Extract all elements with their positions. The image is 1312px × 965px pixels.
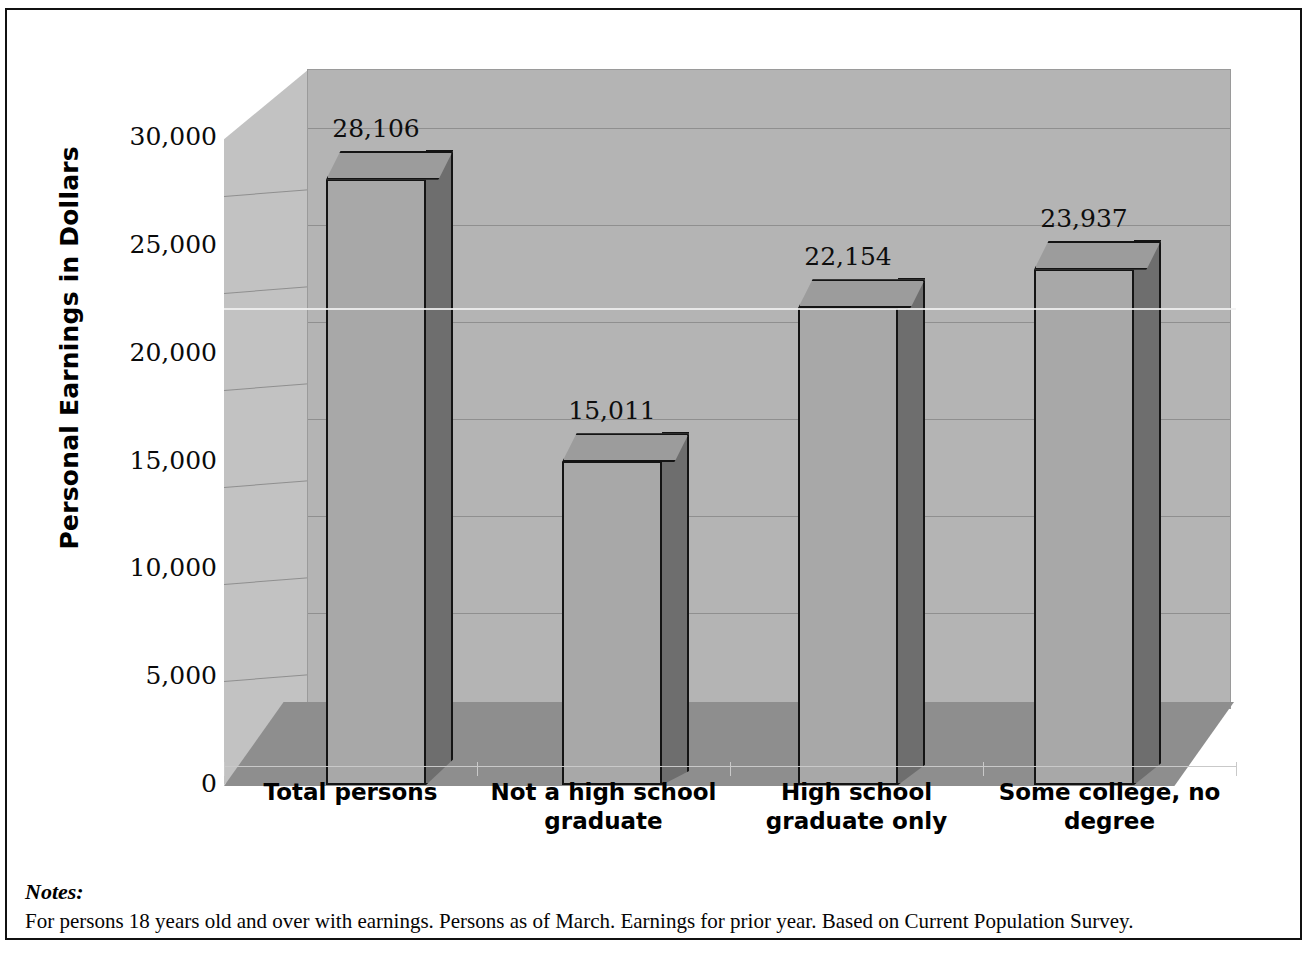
bar-1: 28,106 <box>326 179 426 785</box>
page-bleed-text <box>30 948 1275 965</box>
bar-side-face <box>426 150 453 785</box>
x-tick-separator-4 <box>1236 762 1237 776</box>
scanline-artifact <box>224 308 1236 310</box>
bar-top-face <box>1034 241 1161 270</box>
x-category-label-1: Total persons <box>224 778 477 837</box>
chart-figure-frame: Personal Earnings in Dollars 05,00010,00… <box>5 8 1302 940</box>
x-category-label-line: High school <box>736 778 977 807</box>
bar-value-label-1: 28,106 <box>286 114 466 143</box>
bar-front-face <box>798 307 898 785</box>
y-tick-label-10000: 10,000 <box>87 555 217 580</box>
y-axis-title: Personal Earnings in Dollars <box>55 190 84 550</box>
bar-front-face <box>562 461 662 785</box>
bar-top-face <box>798 279 925 308</box>
x-category-label-line: Not a high school <box>483 778 724 807</box>
bar-4: 23,937 <box>1034 269 1134 785</box>
x-category-label-line: graduate <box>483 807 724 836</box>
bar-2: 15,011 <box>562 461 662 785</box>
bar-value-label-3: 22,154 <box>758 242 938 271</box>
x-tick-separator-2 <box>730 762 731 776</box>
x-category-label-3: High schoolgraduate only <box>730 778 983 837</box>
chart-area: Personal Earnings in Dollars 05,00010,00… <box>7 10 1300 855</box>
gridline-side-30000 <box>224 189 309 197</box>
x-category-label-line: Some college, no <box>989 778 1230 807</box>
bar-top-face <box>562 433 689 462</box>
gridline-side-25000 <box>224 286 309 294</box>
x-axis-category-labels: Total personsNot a high schoolgraduateHi… <box>224 778 1236 837</box>
x-category-label-line: Total persons <box>230 778 471 807</box>
plot-3d-box: 28,10615,01122,15423,937 <box>224 62 1236 762</box>
bar-side-face <box>898 278 925 785</box>
notes-label: Notes: <box>25 878 1275 906</box>
y-tick-label-15000: 15,000 <box>87 448 217 473</box>
y-tick-label-20000: 20,000 <box>87 340 217 365</box>
x-category-label-line: degree <box>989 807 1230 836</box>
gridline-side-15000 <box>224 480 309 488</box>
x-tick-separator-0 <box>224 762 225 776</box>
bar-front-face <box>326 179 426 785</box>
y-tick-label-25000: 25,000 <box>87 232 217 257</box>
x-category-label-4: Some college, nodegree <box>983 778 1236 837</box>
gridline-side-20000 <box>224 383 309 391</box>
y-tick-label-5000: 5,000 <box>87 663 217 688</box>
notes-text: For persons 18 years old and over with e… <box>25 908 1275 935</box>
bar-3: 22,154 <box>798 307 898 785</box>
bar-top-face <box>326 151 453 180</box>
gridline-side-10000 <box>224 577 309 585</box>
x-tick-separator-3 <box>983 762 984 776</box>
x-category-label-2: Not a high schoolgraduate <box>477 778 730 837</box>
bar-front-face <box>1034 269 1134 785</box>
bar-side-face <box>662 432 689 785</box>
y-tick-label-30000: 30,000 <box>87 124 217 149</box>
bar-value-label-2: 15,011 <box>522 396 702 425</box>
x-tick-separator-1 <box>477 762 478 776</box>
bar-value-label-4: 23,937 <box>994 204 1174 233</box>
y-tick-label-0: 0 <box>87 771 217 796</box>
bar-side-face <box>1134 240 1161 785</box>
gridline-side-5000 <box>224 674 309 682</box>
notes-block: Notes: For persons 18 years old and over… <box>25 878 1275 935</box>
x-category-label-line: graduate only <box>736 807 977 836</box>
plot-left-wall <box>224 69 309 785</box>
y-axis-tick-labels: 05,00010,00015,00020,00025,00030,000 <box>82 10 217 855</box>
